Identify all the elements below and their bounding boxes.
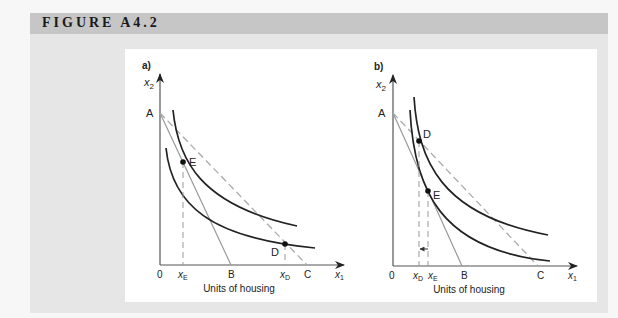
point-e — [425, 188, 431, 194]
budget-line-ac — [393, 113, 538, 266]
charts-svg: a) x2 A E D 0 xE B xD C x1 Units of hous… — [0, 0, 618, 318]
indifference-curve-d — [414, 97, 548, 235]
point-a-label: A — [146, 107, 154, 119]
panel-b: b) x2 A D E 0 xD xE B C x1 Units of hous… — [374, 61, 577, 295]
x-axis-title: Units of housing — [433, 284, 505, 295]
budget-line-ab — [160, 113, 231, 265]
origin-label: 0 — [157, 269, 163, 280]
indifference-curve-e — [410, 110, 550, 261]
point-e-label: E — [433, 189, 440, 201]
indifference-curve-e — [173, 110, 297, 226]
panel-b-label: b) — [374, 61, 383, 72]
y-axis-label: x2 — [375, 78, 387, 93]
x-axis-symbol: x1 — [334, 269, 344, 281]
point-d-label: D — [423, 128, 431, 140]
c-label: C — [537, 270, 544, 281]
c-label: C — [304, 269, 311, 280]
point-e-label: E — [189, 156, 196, 168]
point-d-label: D — [271, 246, 279, 258]
point-d — [282, 241, 288, 247]
xd-label: xD — [279, 269, 290, 281]
b-label: B — [228, 269, 235, 280]
x-axis-symbol: x1 — [567, 270, 577, 282]
xe-label: xE — [177, 269, 188, 281]
point-d — [416, 138, 422, 144]
y-axis-label: x2 — [143, 76, 155, 91]
point-e — [180, 159, 186, 165]
b-label: B — [461, 270, 468, 281]
x-axis-title: Units of housing — [203, 283, 275, 294]
panel-a-label: a) — [142, 60, 151, 71]
xd-label: xD — [412, 270, 423, 282]
xe-label: xE — [427, 270, 438, 282]
origin-label: 0 — [389, 270, 395, 281]
panel-a: a) x2 A E D 0 xE B xD C x1 Units of hous… — [142, 60, 344, 294]
point-a-label: A — [378, 107, 386, 119]
